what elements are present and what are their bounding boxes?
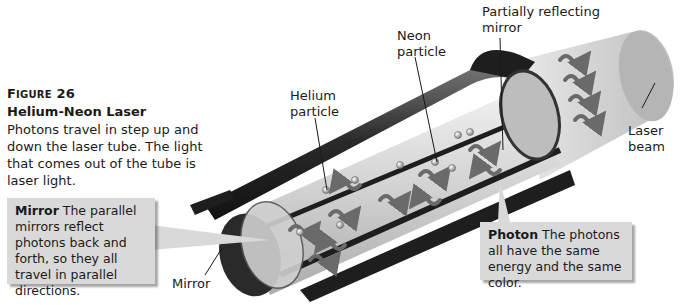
callout-photon: Photon The photons all have the same ene… <box>480 222 632 280</box>
figure-caption: Photons travel in step up and down the l… <box>7 121 227 189</box>
label-helium-particle: Helium particle <box>290 88 339 120</box>
label-mirror: Mirror <box>172 276 210 292</box>
label-partially-reflecting-mirror: Partially reflecting mirror <box>482 4 600 36</box>
label-neon-particle: Neon particle <box>397 28 446 60</box>
label-laser-beam: Laser beam <box>628 123 665 155</box>
callout-mirror: Mirror The parallel mirrors reflect phot… <box>7 198 155 284</box>
figure-number: FIGURE 26 <box>7 86 75 101</box>
figure-title: Helium-Neon Laser <box>7 104 146 119</box>
